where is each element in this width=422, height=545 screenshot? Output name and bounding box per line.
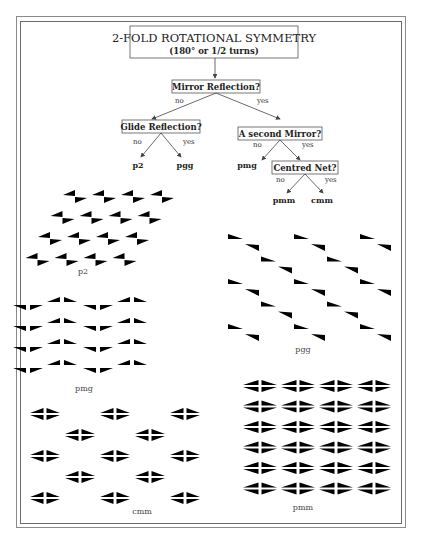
- pmm-triangle-ll: [281, 387, 297, 392]
- pmm-triangle-lr: [300, 387, 316, 392]
- pgg-triangle-b: [311, 244, 325, 251]
- pmm-triangle-lr: [262, 408, 278, 413]
- pmm-triangle-ul: [357, 462, 373, 467]
- pmg-triangle-up-right: [134, 297, 147, 302]
- pmm-triangle-lr: [262, 449, 278, 454]
- q2-no-label: no: [133, 138, 142, 146]
- pmm-triangle-lr: [300, 490, 316, 495]
- pmm-triangle-ll: [357, 449, 373, 454]
- cmm-triangle-ll: [100, 457, 114, 462]
- pmm-triangle-ur: [262, 483, 278, 488]
- cmm-triangle-ll: [30, 499, 44, 504]
- pattern-pmg: [13, 297, 147, 373]
- p2-triangle-upper: [92, 190, 104, 196]
- cmm-triangle-lr: [47, 415, 61, 420]
- pgg-triangle-b: [278, 267, 292, 274]
- pmm-triangle-ur: [338, 462, 354, 467]
- p2-triangle-upper: [38, 232, 50, 238]
- edge-q3-no: [262, 140, 280, 160]
- label-pgg: pgg: [295, 345, 310, 354]
- pmm-triangle-lr: [262, 469, 278, 474]
- pmg-triangle-down-right: [30, 368, 43, 373]
- pmg-triangle-down-left: [13, 326, 26, 331]
- pmm-triangle-ll: [357, 490, 373, 495]
- pmm-triangle-ur: [376, 401, 392, 406]
- pattern-pmm: [243, 380, 391, 495]
- p2-triangle-lower: [96, 260, 108, 266]
- pgg-triangle-b: [377, 289, 391, 296]
- p2-triangle-upper: [125, 232, 137, 238]
- pmm-triangle-lr: [376, 469, 392, 474]
- edge-q3-yes: [280, 140, 300, 160]
- pgg-triangle-b: [311, 334, 325, 341]
- pmm-triangle-ll: [281, 428, 297, 433]
- pmm-triangle-ur: [262, 380, 278, 385]
- p2-triangle-upper: [113, 253, 125, 259]
- cmm-triangle-lr: [117, 499, 131, 504]
- cmm-triangle-ll: [65, 478, 79, 483]
- cmm-triangle-ul: [30, 492, 44, 497]
- pmg-triangle-down-right: [100, 305, 113, 310]
- pgg-triangle-b: [278, 312, 292, 319]
- cmm-triangle-ll: [100, 415, 114, 420]
- pgg-triangle-a: [360, 234, 375, 239]
- pattern-pgg: [228, 234, 391, 341]
- pmg-triangle-down-left: [83, 347, 96, 352]
- pmm-triangle-ur: [376, 442, 392, 447]
- cmm-triangle-ur: [47, 492, 61, 497]
- pmm-triangle-ul: [357, 380, 373, 385]
- pmm-triangle-ul: [281, 401, 297, 406]
- cmm-triangle-ul: [170, 492, 184, 497]
- pmm-triangle-ul: [243, 483, 259, 488]
- pmg-triangle-up-left: [117, 339, 130, 344]
- pattern-cmm: [30, 408, 200, 504]
- p2-triangle-upper: [150, 190, 162, 196]
- pmm-triangle-lr: [376, 428, 392, 433]
- pmm-triangle-ul: [357, 442, 373, 447]
- pmm-triangle-ll: [319, 408, 335, 413]
- cmm-triangle-lr: [187, 499, 201, 504]
- cmm-triangle-ur: [187, 492, 201, 497]
- pmm-triangle-ll: [243, 449, 259, 454]
- cmm-triangle-ur: [152, 429, 166, 434]
- pmg-triangle-up-left: [117, 297, 130, 302]
- pmm-triangle-ur: [376, 462, 392, 467]
- cmm-triangle-ul: [170, 450, 184, 455]
- cmm-triangle-ur: [117, 492, 131, 497]
- q2-glide-reflection: Glide Reflection?: [120, 122, 201, 132]
- pmm-triangle-ur: [300, 462, 316, 467]
- q3-second-mirror: A second Mirror?: [238, 129, 321, 139]
- cmm-triangle-ul: [65, 471, 79, 476]
- pmm-triangle-ll: [319, 387, 335, 392]
- pgg-triangle-a: [261, 257, 276, 262]
- pmm-triangle-lr: [376, 387, 392, 392]
- q4-centred-net: Centred Net?: [273, 163, 336, 173]
- pmm-triangle-lr: [338, 490, 354, 495]
- label-p2: p2: [78, 267, 88, 276]
- label-pmm: pmm: [293, 503, 314, 512]
- pmm-triangle-ur: [338, 483, 354, 488]
- pmm-triangle-lr: [338, 449, 354, 454]
- cmm-triangle-ll: [135, 436, 149, 441]
- pmm-triangle-ur: [376, 421, 392, 426]
- cmm-triangle-lr: [187, 457, 201, 462]
- edge-q1-no: [152, 93, 216, 119]
- pmm-triangle-lr: [262, 387, 278, 392]
- p2-triangle-upper: [138, 211, 150, 217]
- p2-triangle-lower: [63, 218, 75, 224]
- p2-triangle-lower: [150, 218, 162, 224]
- p2-triangle-lower: [125, 260, 137, 266]
- pmm-triangle-ul: [243, 462, 259, 467]
- pmm-triangle-lr: [300, 428, 316, 433]
- pmm-triangle-ul: [319, 380, 335, 385]
- pmg-triangle-down-left: [83, 326, 96, 331]
- p2-triangle-upper: [63, 190, 75, 196]
- cmm-triangle-ll: [135, 478, 149, 483]
- leaf-pmg: pmg: [237, 160, 257, 170]
- p2-triangle-lower: [79, 239, 91, 245]
- pgg-triangle-a: [360, 279, 375, 284]
- pmg-triangle-down-right: [30, 326, 43, 331]
- pmm-triangle-ul: [281, 421, 297, 426]
- cmm-triangle-lr: [47, 499, 61, 504]
- pmm-triangle-ul: [319, 462, 335, 467]
